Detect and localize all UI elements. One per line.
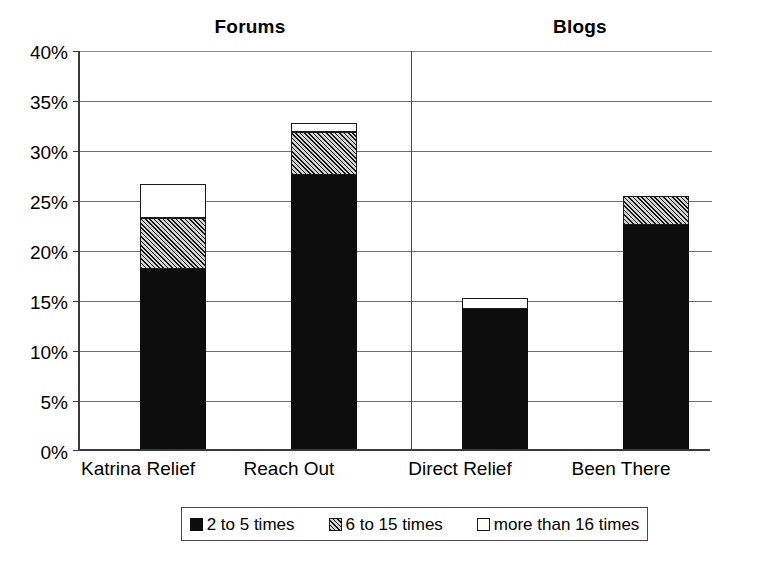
tickmark-15 — [73, 301, 80, 302]
legend-label-6-to-15-times: 6 to 15 times — [346, 516, 443, 533]
tickmark-25 — [73, 201, 80, 202]
bar-segment-6-to-15-times — [623, 196, 689, 225]
ytick-label-35: 35% — [2, 93, 68, 112]
ytick-label-20: 20% — [2, 243, 68, 262]
ytick-label-5: 5% — [2, 393, 68, 412]
plot-area — [78, 51, 710, 451]
bar-segment-2-to-5-times — [462, 309, 528, 449]
ytick-label-10: 10% — [2, 343, 68, 362]
group-title-blogs: Blogs — [500, 16, 660, 38]
bar-segment-more-than-16-times — [140, 184, 206, 218]
legend-item-6-to-15-times: 6 to 15 times — [329, 516, 443, 533]
stacked-bar-chart: Forums Blogs 40% 35% 30% 25% 20% 15% 10%… — [0, 0, 758, 567]
tickmark-0 — [73, 450, 80, 451]
tickmark-30 — [73, 151, 80, 152]
black-square-icon — [190, 518, 203, 531]
bar-reach-out — [291, 123, 357, 449]
category-label-direct-relief: Direct Relief — [380, 459, 540, 478]
category-label-katrina-relief: Katrina Relief — [58, 459, 218, 478]
gridline-30 — [80, 151, 712, 152]
bar-segment-6-to-15-times — [140, 218, 206, 269]
bar-direct-relief — [462, 298, 528, 449]
legend-item-more-than-16-times: more than 16 times — [477, 516, 640, 533]
gridline-40 — [80, 51, 712, 52]
bar-katrina-relief — [140, 184, 206, 449]
ytick-label-40: 40% — [2, 43, 68, 62]
bar-segment-2-to-5-times — [623, 225, 689, 449]
tickmark-35 — [73, 101, 80, 102]
group-title-forums: Forums — [170, 16, 330, 38]
tickmark-10 — [73, 351, 80, 352]
ytick-label-25: 25% — [2, 193, 68, 212]
bar-segment-more-than-16-times — [291, 123, 357, 132]
ytick-label-30: 30% — [2, 143, 68, 162]
legend-item-2-to-5-times: 2 to 5 times — [190, 516, 295, 533]
hatched-square-icon — [329, 518, 342, 531]
white-square-icon — [477, 518, 490, 531]
legend-label-more-than-16-times: more than 16 times — [494, 516, 640, 533]
bar-segment-6-to-15-times — [291, 132, 357, 175]
bar-segment-more-than-16-times — [462, 298, 528, 309]
ytick-label-15: 15% — [2, 293, 68, 312]
tickmark-5 — [73, 401, 80, 402]
bar-been-there — [623, 196, 689, 449]
chart-legend: 2 to 5 times 6 to 15 times more than 16 … — [181, 507, 648, 541]
category-label-reach-out: Reach Out — [209, 459, 369, 478]
group-separator — [411, 51, 412, 451]
tickmark-40 — [73, 51, 80, 52]
category-label-been-there: Been There — [541, 459, 701, 478]
gridline-35 — [80, 101, 712, 102]
tickmark-20 — [73, 251, 80, 252]
legend-label-2-to-5-times: 2 to 5 times — [207, 516, 295, 533]
bar-segment-2-to-5-times — [140, 269, 206, 449]
bar-segment-2-to-5-times — [291, 175, 357, 449]
